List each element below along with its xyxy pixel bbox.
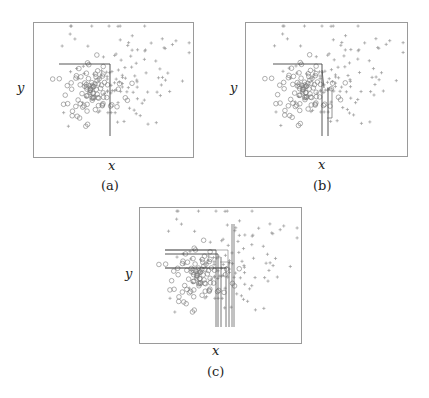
circle-marker [180, 290, 185, 295]
cross-marker [266, 253, 269, 256]
cross-marker [167, 230, 170, 233]
circle-marker [169, 278, 174, 283]
cross-marker [264, 262, 267, 265]
circle-marker [237, 266, 242, 271]
cross-marker [242, 298, 245, 301]
cross-marker [263, 276, 266, 279]
cross-marker [209, 241, 212, 244]
cross-marker [240, 294, 243, 297]
cross-marker [282, 224, 285, 227]
cross-marker [238, 219, 241, 222]
cross-marker [243, 266, 246, 269]
cross-marker [248, 287, 251, 290]
circle-marker [184, 268, 189, 273]
cross-marker [250, 210, 253, 213]
circle-marker [186, 277, 191, 282]
cross-marker [246, 300, 249, 303]
cross-marker [235, 292, 238, 295]
circle-marker [208, 280, 213, 285]
cross-marker [180, 223, 183, 226]
circle-marker [176, 272, 181, 277]
circle-marker [172, 287, 177, 292]
cross-marker [222, 263, 225, 266]
circle-marker [191, 294, 196, 299]
circle-marker [177, 295, 182, 300]
x-axis-label: x [212, 343, 219, 358]
cross-marker [173, 310, 176, 313]
circle-marker [182, 283, 187, 288]
cross-marker [253, 276, 256, 279]
cross-marker [266, 280, 269, 283]
circle-marker [208, 276, 213, 281]
cross-marker [226, 223, 229, 226]
cross-marker [243, 271, 246, 274]
circle-marker [216, 288, 221, 293]
cross-marker [214, 210, 217, 213]
circle-marker [223, 272, 228, 277]
circle-marker [168, 288, 173, 293]
cross-marker [175, 218, 178, 221]
cross-marker [250, 284, 253, 287]
cross-marker [238, 234, 241, 237]
cross-marker [224, 254, 227, 257]
circle-marker [176, 299, 181, 304]
cross-marker [227, 244, 230, 247]
cross-marker [234, 271, 237, 274]
circle-marker [190, 310, 195, 315]
cross-marker [296, 226, 299, 229]
cross-marker [296, 236, 299, 239]
circle-marker [157, 262, 162, 267]
cross-marker [197, 210, 200, 213]
cross-marker [212, 260, 215, 263]
cross-marker [267, 269, 270, 272]
scatter-plot-c [0, 0, 429, 398]
caption-c: (c) [207, 364, 224, 379]
circle-marker [201, 238, 206, 243]
cross-marker [250, 243, 253, 246]
circle-marker [193, 262, 198, 267]
cross-marker [175, 255, 178, 258]
circle-marker [163, 262, 168, 267]
cross-marker [240, 260, 243, 263]
cross-marker [262, 307, 265, 310]
cross-marker [254, 308, 257, 311]
circle-marker [192, 308, 197, 313]
cross-marker [168, 297, 171, 300]
cross-marker [268, 261, 271, 264]
circle-marker [202, 254, 207, 259]
cross-marker [268, 222, 271, 225]
cross-marker [237, 251, 240, 254]
cross-marker [193, 230, 196, 233]
cross-marker [243, 233, 246, 236]
cross-marker [242, 247, 245, 250]
cross-marker [274, 257, 277, 260]
cross-marker [262, 245, 265, 248]
cross-marker [234, 226, 237, 229]
cross-marker [271, 264, 274, 267]
cross-marker [239, 276, 242, 279]
circle-marker [187, 290, 192, 295]
cross-marker [228, 271, 231, 274]
cross-marker [279, 228, 282, 231]
cross-marker [257, 227, 260, 230]
cross-marker [289, 265, 292, 268]
cross-marker [236, 240, 239, 243]
cross-marker [228, 261, 231, 264]
cross-marker [226, 210, 229, 213]
circle-marker [185, 260, 190, 265]
cross-marker [243, 283, 246, 286]
cross-marker [252, 257, 255, 260]
circle-marker [171, 269, 176, 274]
cross-marker [276, 275, 279, 278]
circle-marker [200, 293, 205, 298]
